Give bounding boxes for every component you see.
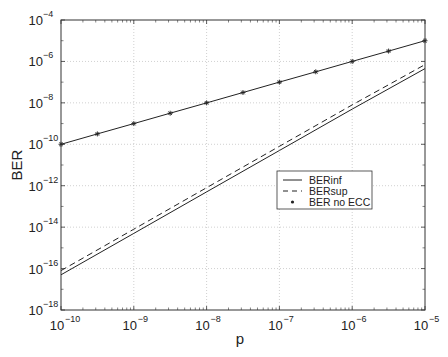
y-tick-exponent: −14 — [43, 216, 58, 226]
x-axis-tick-labels: 10−1010−910−810−710−610−5 — [50, 314, 440, 333]
y-tick-exponent: −6 — [43, 50, 53, 60]
data-point-marker — [95, 131, 100, 136]
x-tick-label: 10 — [414, 318, 428, 333]
data-point-marker — [350, 59, 355, 64]
y-tick-label: 10 — [29, 54, 43, 69]
y-tick-exponent: −8 — [43, 92, 53, 102]
x-tick-label: 10 — [341, 318, 355, 333]
y-tick-label: 10 — [29, 220, 43, 235]
x-axis-label: p — [236, 330, 244, 347]
y-tick-label: 10 — [29, 303, 43, 318]
y-axis-tick-labels: 10−410−610−810−1010−1210−1410−1610−18 — [29, 9, 59, 318]
data-point-marker — [386, 49, 391, 54]
data-point-marker — [131, 121, 136, 126]
data-point-marker — [240, 90, 245, 95]
y-tick-label: 10 — [29, 96, 43, 111]
ber-vs-p-chart: 10−1010−910−810−710−610−5 10−410−610−810… — [0, 0, 448, 357]
y-tick-label: 10 — [29, 262, 43, 277]
y-tick-label: 10 — [29, 179, 43, 194]
y-axis-label: BER — [8, 149, 25, 180]
minor-ticks — [61, 20, 425, 310]
y-tick-exponent: −10 — [43, 133, 58, 143]
data-series — [59, 38, 428, 275]
x-tick-label: 10 — [268, 318, 282, 333]
y-tick-exponent: −12 — [43, 175, 58, 185]
x-tick-label: 10 — [50, 318, 64, 333]
x-tick-label: 10 — [195, 318, 209, 333]
legend: BERinf BERsup BER no ECC — [277, 171, 372, 209]
legend-label-ber-no-ecc: BER no ECC — [309, 196, 371, 208]
data-point-marker — [313, 69, 318, 74]
data-point-marker — [168, 111, 173, 116]
x-tick-exponent: −7 — [283, 314, 293, 324]
plot-frame — [61, 20, 425, 310]
y-tick-exponent: −16 — [43, 258, 58, 268]
y-tick-exponent: −4 — [43, 9, 53, 19]
x-tick-exponent: −9 — [138, 314, 148, 324]
x-tick-exponent: −8 — [211, 314, 221, 324]
series-line-bersup — [61, 65, 425, 271]
x-tick-exponent: −6 — [356, 314, 366, 324]
legend-asterisk-marker-icon — [291, 200, 294, 203]
y-tick-label: 10 — [29, 137, 43, 152]
x-tick-exponent: −5 — [429, 314, 439, 324]
y-tick-label: 10 — [29, 13, 43, 28]
data-point-marker — [277, 80, 282, 85]
data-point-marker — [204, 100, 209, 105]
grid-lines — [61, 20, 425, 310]
y-tick-exponent: −18 — [43, 299, 58, 309]
x-tick-label: 10 — [123, 318, 137, 333]
x-tick-exponent: −10 — [65, 314, 80, 324]
